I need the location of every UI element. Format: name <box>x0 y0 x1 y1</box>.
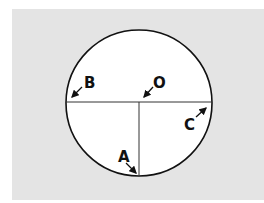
label-a: A <box>118 148 130 166</box>
label-o: O <box>153 74 166 92</box>
label-b: B <box>84 74 95 92</box>
circle-diagram: B O C A <box>0 0 264 203</box>
label-c: C <box>184 116 195 134</box>
